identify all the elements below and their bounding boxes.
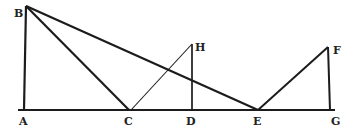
geometry-diagram: B A C D E G H F xyxy=(0,0,356,133)
segment-fg xyxy=(328,47,330,110)
label-g: G xyxy=(331,115,340,128)
label-b: B xyxy=(14,7,23,20)
label-d: D xyxy=(186,115,196,128)
label-a: A xyxy=(18,115,28,128)
label-e: E xyxy=(253,115,261,128)
segment-ef xyxy=(258,47,328,110)
segment-bc xyxy=(26,6,129,110)
segment-ab xyxy=(24,6,26,110)
label-f: F xyxy=(333,44,341,57)
segment-be xyxy=(26,6,258,110)
diagram-canvas: B A C D E G H F xyxy=(0,0,356,133)
label-c: C xyxy=(124,115,133,128)
label-h: H xyxy=(195,41,205,54)
